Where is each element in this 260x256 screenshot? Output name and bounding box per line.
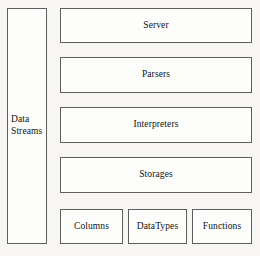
node-columns-label: Columns	[72, 221, 111, 232]
node-server: Server	[60, 8, 252, 43]
node-columns: Columns	[60, 209, 123, 244]
node-parsers-label: Parsers	[140, 69, 172, 80]
node-datatypes: DataTypes	[128, 209, 187, 244]
node-parsers: Parsers	[60, 57, 252, 93]
node-data-streams: Data Streams	[7, 8, 47, 244]
architecture-diagram: Data Streams Server Parsers Interpreters…	[0, 0, 260, 256]
node-storages-label: Storages	[137, 169, 175, 180]
node-interpreters: Interpreters	[60, 107, 252, 143]
node-interpreters-label: Interpreters	[132, 119, 181, 130]
node-data-streams-label: Data Streams	[8, 114, 44, 137]
node-functions-label: Functions	[201, 221, 243, 232]
node-functions: Functions	[192, 209, 252, 244]
node-storages: Storages	[60, 157, 252, 193]
node-datatypes-label: DataTypes	[135, 221, 180, 232]
node-server-label: Server	[141, 20, 170, 31]
